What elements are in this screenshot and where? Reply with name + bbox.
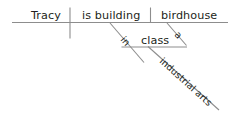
subject-label: Tracy xyxy=(30,9,61,22)
preposition-label: in xyxy=(118,34,132,48)
verb-label: is building xyxy=(82,9,140,22)
sentence-diagram: Tracy is building birdhouse a in class i… xyxy=(0,0,240,114)
direct-object-label: birdhouse xyxy=(161,9,217,22)
diagram-canvas: Tracy is building birdhouse a in class i… xyxy=(0,0,240,114)
prepositional-object-label: class xyxy=(141,34,169,47)
noun-modifier-label: industrial arts xyxy=(158,55,215,108)
